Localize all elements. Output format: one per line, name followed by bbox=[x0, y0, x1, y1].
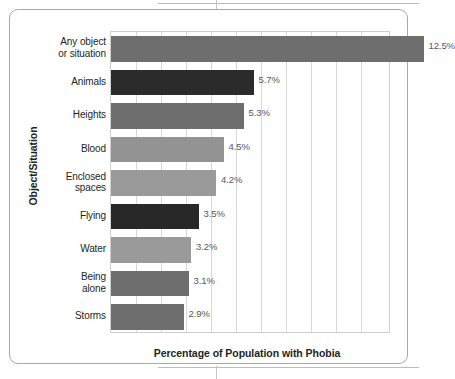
bar-row[interactable]: 3.1% bbox=[111, 267, 389, 301]
bar-row[interactable]: 4.5% bbox=[111, 133, 389, 167]
bar[interactable] bbox=[111, 103, 244, 129]
bar-value-label: 4.2% bbox=[221, 174, 242, 185]
category-label: Water bbox=[10, 243, 106, 255]
category-label: Blood bbox=[10, 143, 106, 155]
bar-row[interactable]: 3.2% bbox=[111, 233, 389, 267]
bar[interactable] bbox=[111, 204, 199, 230]
bar[interactable] bbox=[111, 271, 189, 297]
chart-figure-frame: Object/Situation Any objector situationA… bbox=[9, 9, 408, 364]
category-label: Storms bbox=[10, 310, 106, 322]
bar[interactable] bbox=[111, 36, 424, 62]
category-axis-labels: Any objector situationAnimalsHeightsBloo… bbox=[10, 31, 106, 333]
category-label: Animals bbox=[10, 76, 106, 88]
bar-row[interactable]: 2.9% bbox=[111, 300, 389, 334]
category-label-line: or situation bbox=[10, 48, 106, 60]
bar-row[interactable]: 5.7% bbox=[111, 66, 389, 100]
bar-value-label: 5.3% bbox=[249, 107, 270, 118]
bar[interactable] bbox=[111, 170, 216, 196]
category-label: Enclosedspaces bbox=[10, 171, 106, 194]
category-label-line: Heights bbox=[10, 109, 106, 121]
bar[interactable] bbox=[111, 70, 254, 96]
category-label-line: Storms bbox=[10, 310, 106, 322]
bar-value-label: 12.5% bbox=[429, 40, 455, 51]
x-axis-title: Percentage of Population with Phobia bbox=[102, 347, 392, 359]
bar-row[interactable]: 3.5% bbox=[111, 200, 389, 234]
page-scan-rule-top-right bbox=[217, 3, 419, 4]
category-label: Beingalone bbox=[10, 271, 106, 294]
bar-value-label: 2.9% bbox=[189, 308, 210, 319]
category-label-line: Blood bbox=[10, 143, 106, 155]
category-label-line: Water bbox=[10, 243, 106, 255]
bar-row[interactable]: 12.5% bbox=[111, 32, 389, 66]
category-label-line: alone bbox=[10, 283, 106, 295]
bar[interactable] bbox=[111, 304, 184, 330]
bar-value-label: 3.2% bbox=[196, 241, 217, 252]
category-label-line: Enclosed bbox=[10, 171, 106, 183]
page-scan-divider-bottom bbox=[216, 366, 217, 379]
category-label: Flying bbox=[10, 210, 106, 222]
bar-row[interactable]: 4.2% bbox=[111, 166, 389, 200]
bar[interactable] bbox=[111, 237, 191, 263]
page-scan-rule-bottom-left bbox=[158, 367, 217, 368]
page-scan-rule-top-left bbox=[158, 3, 217, 4]
category-label-line: Animals bbox=[10, 76, 106, 88]
bar-value-label: 3.5% bbox=[204, 208, 225, 219]
bar[interactable] bbox=[111, 137, 224, 163]
bar-row[interactable]: 5.3% bbox=[111, 99, 389, 133]
bar-value-label: 4.5% bbox=[229, 141, 250, 152]
category-label-line: Flying bbox=[10, 210, 106, 222]
bar-value-label: 3.1% bbox=[194, 275, 215, 286]
page-scan-rule-bottom-right bbox=[217, 367, 419, 368]
category-label-line: Being bbox=[10, 271, 106, 283]
category-label-line: Any object bbox=[10, 36, 106, 48]
category-label: Heights bbox=[10, 109, 106, 121]
bar-value-label: 5.7% bbox=[259, 74, 280, 85]
category-label: Any objector situation bbox=[10, 36, 106, 59]
category-label-line: spaces bbox=[10, 182, 106, 194]
plot-area: 12.5%5.7%5.3%4.5%4.2%3.5%3.2%3.1%2.9% bbox=[110, 31, 390, 333]
